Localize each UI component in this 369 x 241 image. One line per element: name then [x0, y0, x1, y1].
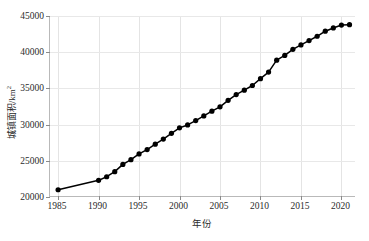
gridline-vertical [139, 16, 140, 196]
gridline-vertical [341, 16, 342, 196]
data-point-marker [290, 47, 295, 52]
x-axis-title: 年份 [49, 216, 355, 230]
data-point-marker [226, 98, 231, 103]
y-tick-label: 35000 [44, 83, 68, 94]
x-tick [139, 196, 140, 200]
gridline-vertical [180, 16, 181, 196]
y-axis-title-text: 城镇面积/km [7, 89, 17, 139]
y-tick-label: 40000 [44, 47, 68, 58]
x-tick-label: 1985 [48, 201, 67, 212]
x-tick [99, 196, 100, 200]
x-tick-label: 2005 [210, 201, 229, 212]
gridline-vertical [260, 16, 261, 196]
data-point-marker [347, 22, 352, 27]
data-point-marker [161, 136, 166, 141]
data-point-marker [153, 142, 158, 147]
gridline-horizontal [50, 161, 355, 162]
y-tick-label: 20000 [44, 192, 68, 203]
x-tick [341, 196, 342, 200]
data-point-marker [331, 25, 336, 30]
data-point-marker [323, 29, 328, 34]
data-point-marker [234, 92, 239, 97]
x-tick-label: 2015 [290, 201, 309, 212]
data-point-marker [282, 53, 287, 58]
data-point-marker [120, 162, 125, 167]
data-point-marker [306, 38, 311, 43]
data-point-marker [169, 131, 174, 136]
data-point-marker [193, 118, 198, 123]
gridline-vertical [220, 16, 221, 196]
data-point-marker [209, 109, 214, 114]
data-point-marker [145, 147, 150, 152]
x-tick [220, 196, 221, 200]
x-tick-label: 2010 [250, 201, 269, 212]
gridline-vertical [99, 16, 100, 196]
gridline-horizontal [50, 52, 355, 53]
data-point-marker [315, 34, 320, 39]
data-point-marker [266, 70, 271, 75]
x-tick [301, 196, 302, 200]
x-tick [180, 196, 181, 200]
data-point-marker [201, 113, 206, 118]
gridline-horizontal [50, 125, 355, 126]
gridline-vertical [58, 16, 59, 196]
gridline-horizontal [50, 16, 355, 17]
y-tick-label: 25000 [44, 155, 68, 166]
chart-figure: 19851990199520002005201020152020 2000025… [0, 0, 369, 241]
y-tick-label: 30000 [44, 119, 68, 130]
y-axis-title-exponent: 2 [5, 86, 12, 89]
x-tick-label: 1990 [88, 201, 107, 212]
data-point-marker [112, 169, 117, 174]
y-tick-label: 45000 [44, 11, 68, 22]
x-tick-label: 2020 [331, 201, 350, 212]
x-tick-label: 2000 [169, 201, 188, 212]
y-axis-title: 城镇面积/km2 [5, 63, 18, 163]
data-series-urban-area [50, 16, 356, 197]
x-tick [260, 196, 261, 200]
series-line [58, 25, 349, 190]
data-point-marker [250, 83, 255, 88]
data-point-marker [104, 174, 109, 179]
gridline-horizontal [50, 88, 355, 89]
plot-area [49, 16, 355, 197]
x-tick-label: 1995 [129, 201, 148, 212]
data-point-marker [274, 58, 279, 63]
gridline-vertical [301, 16, 302, 196]
